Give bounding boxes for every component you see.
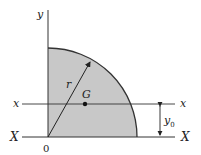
centroid-point xyxy=(83,102,87,106)
x-label-left: x xyxy=(13,97,20,110)
quarter-circle-diagram: y x x X X r G 0 y0 xyxy=(0,0,201,155)
X-label-right: X xyxy=(180,130,190,144)
quarter-circle-area xyxy=(48,48,137,137)
X-label-left: X xyxy=(9,130,19,144)
x-label-right: x xyxy=(180,97,187,110)
y0-label: y0 xyxy=(163,114,175,129)
origin-label: 0 xyxy=(43,143,49,154)
y-axis-label: y xyxy=(36,8,44,21)
centroid-label: G xyxy=(82,88,91,101)
radius-label: r xyxy=(66,78,72,91)
